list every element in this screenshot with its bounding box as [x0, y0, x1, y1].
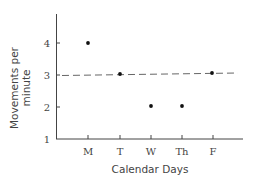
x-ticks: [88, 135, 213, 139]
data-point-f: [210, 71, 214, 75]
data-point-m: [86, 41, 90, 45]
x-tick-label-t: T: [117, 146, 124, 157]
y-tick-label-1: 1: [44, 134, 50, 145]
x-tick-label-w: W: [146, 146, 157, 157]
y-tick-labels: 4 3 2 1: [44, 38, 50, 145]
y-tick-label-3: 3: [44, 70, 50, 81]
data-point-th: [180, 104, 184, 108]
y-tick-label-4: 4: [44, 38, 50, 49]
y-axis-title: Movements per minute: [8, 46, 32, 129]
y-axis-title-line2: minute: [20, 69, 32, 106]
x-tick-label-th: Th: [175, 146, 189, 157]
x-tick-labels: M T W Th F: [83, 146, 217, 157]
data-point-w: [149, 104, 153, 108]
y-axis-title-line1: Movements per: [8, 46, 20, 129]
x-tick-label-f: F: [210, 146, 217, 157]
y-tick-label-2: 2: [44, 102, 50, 113]
x-axis-title: Calendar Days: [112, 163, 189, 175]
scatter-chart: 4 3 2 1 M T W Th F Calendar Days Movemen…: [0, 0, 257, 180]
x-tick-label-m: M: [83, 146, 93, 157]
data-point-t: [118, 72, 122, 76]
